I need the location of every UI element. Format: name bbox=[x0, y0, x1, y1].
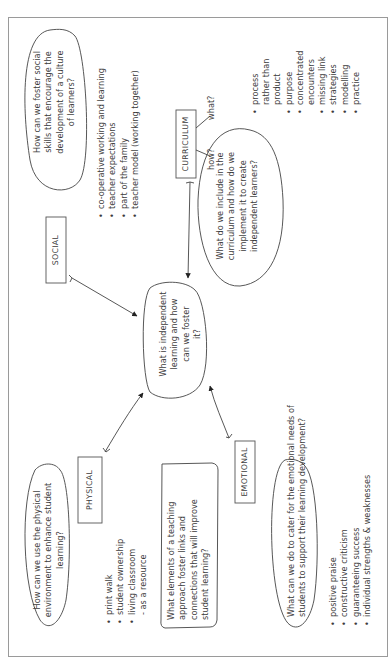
emotional-points: positive praise constructive criticism g… bbox=[328, 456, 374, 626]
list-item: practice bbox=[351, 24, 362, 114]
physical-question: How can we use the physical environment … bbox=[32, 475, 66, 625]
emotional-question: What can we do to cater for the emotiona… bbox=[286, 457, 309, 617]
social-label: SOCIAL bbox=[50, 219, 61, 281]
list-item: guaranteeing success bbox=[351, 456, 362, 626]
list-item: process bbox=[250, 24, 261, 114]
curriculum-points: process rather than product purpose conc… bbox=[250, 24, 362, 114]
list-item: part of the family bbox=[119, 38, 130, 218]
list-item: product bbox=[272, 24, 283, 114]
social-arrow bbox=[72, 278, 137, 316]
what-label: what? bbox=[206, 96, 217, 120]
list-item: modelling bbox=[340, 24, 351, 114]
list-item: individual strengths & weaknesses bbox=[362, 456, 373, 626]
list-item: positive praise bbox=[328, 456, 339, 626]
physical-arrow bbox=[105, 393, 143, 452]
list-item: teacher model (working together) bbox=[130, 38, 141, 218]
list-item: student ownership bbox=[115, 524, 126, 624]
list-item: co-operative working and learning bbox=[96, 38, 107, 218]
list-item: living classroom bbox=[127, 524, 138, 624]
curriculum-arrow bbox=[188, 182, 190, 278]
list-item: purpose bbox=[284, 24, 295, 114]
teaching-question: What elements of a teaching approach fos… bbox=[166, 470, 212, 620]
list-item: missing link bbox=[317, 24, 328, 114]
physical-label: PHYSICAL bbox=[84, 459, 95, 521]
list-item: print walk bbox=[104, 524, 115, 624]
list-item: rather than bbox=[261, 24, 272, 114]
list-item: strategies bbox=[328, 24, 339, 114]
social-points: co-operative working and learning teache… bbox=[96, 38, 142, 218]
physical-points: print walk student ownership living clas… bbox=[104, 524, 150, 624]
list-item: teacher expectations bbox=[107, 38, 118, 218]
list-item: concentrated bbox=[295, 24, 306, 114]
social-question: How can we foster social skills that enc… bbox=[32, 40, 78, 164]
list-item: encounters bbox=[306, 24, 317, 114]
central-question: What is independent learning and how can… bbox=[158, 288, 204, 380]
list-item: - as a resource bbox=[138, 524, 149, 624]
emotional-label: EMOTIONAL bbox=[239, 443, 250, 501]
list-item: constructive criticism bbox=[339, 456, 350, 626]
emotional-arrow bbox=[210, 386, 229, 438]
curriculum-label: CURRICULUM bbox=[180, 112, 191, 176]
curriculum-question: What do we include in the curriculum and… bbox=[215, 150, 261, 262]
